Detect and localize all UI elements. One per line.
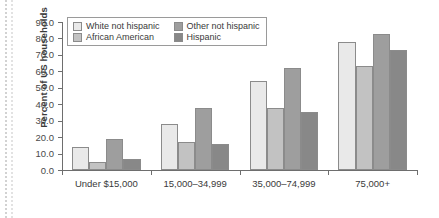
bar [390, 50, 407, 170]
legend-item-other-not-hispanic[interactable]: Other not hispanic [174, 21, 260, 31]
bar [123, 159, 140, 171]
y-tick: 90.0 [58, 22, 62, 23]
y-tick-label: 10.0 [36, 148, 55, 159]
y-tick: 70.0 [58, 55, 62, 56]
y-tick: 50.0 [58, 88, 62, 89]
y-tick: 60.0 [58, 71, 62, 72]
x-tick-label: 35,000–74,999 [252, 178, 315, 189]
bar [338, 42, 355, 170]
bar [161, 124, 178, 170]
x-tick [328, 170, 329, 175]
y-tick-label: 20.0 [36, 132, 55, 143]
bar [284, 68, 301, 170]
page-margin-rule [5, 0, 7, 218]
x-tick [62, 170, 63, 175]
legend-swatch-icon-white-not-hispanic [73, 22, 82, 31]
bar-chart-figure: Percent of US households 0.010.020.030.0… [0, 0, 439, 218]
chart-legend: White not hispanic Other not hispanic Af… [67, 17, 267, 46]
x-tick [240, 170, 241, 175]
x-tick-label: Under $15,000 [75, 178, 138, 189]
y-axis-line [62, 22, 63, 170]
y-tick-label: 60.0 [36, 66, 55, 77]
y-tick-label: 70.0 [36, 49, 55, 60]
bar [106, 139, 123, 170]
legend-swatch-icon-african-american [73, 33, 82, 42]
legend-label-other-not-hispanic: Other not hispanic [187, 21, 260, 31]
page-margin-rule-secondary [11, 0, 13, 218]
y-tick: 30.0 [58, 121, 62, 122]
bar [89, 162, 106, 170]
y-tick-label: 50.0 [36, 82, 55, 93]
legend-label-african-american: African American [86, 32, 154, 42]
bar [72, 147, 89, 170]
x-tick-label: 15,000–34,999 [163, 178, 226, 189]
legend-swatch-icon-hispanic [174, 33, 183, 42]
y-tick-label: 30.0 [36, 115, 55, 126]
y-tick-label: 80.0 [36, 33, 55, 44]
bar [178, 142, 195, 170]
bar [373, 34, 390, 170]
x-tick [151, 170, 152, 175]
y-tick: 80.0 [58, 38, 62, 39]
bar [267, 108, 284, 170]
y-tick: 20.0 [58, 137, 62, 138]
legend-item-african-american[interactable]: African American [73, 32, 160, 42]
bar [250, 81, 267, 170]
y-tick: 40.0 [58, 104, 62, 105]
y-tick-label: 0.0 [41, 165, 54, 176]
x-tick [417, 170, 418, 175]
legend-label-hispanic: Hispanic [187, 32, 222, 42]
bar [212, 144, 229, 170]
legend-item-white-not-hispanic[interactable]: White not hispanic [73, 21, 160, 31]
legend-label-white-not-hispanic: White not hispanic [86, 21, 160, 31]
legend-item-hispanic[interactable]: Hispanic [174, 32, 260, 42]
x-tick-label: 75,000+ [355, 178, 390, 189]
bar [195, 108, 212, 170]
y-tick-label: 40.0 [36, 99, 55, 110]
bar [356, 66, 373, 170]
y-tick-label: 90.0 [36, 17, 55, 28]
bar [301, 112, 318, 170]
legend-swatch-icon-other-not-hispanic [174, 22, 183, 31]
y-tick: 10.0 [58, 154, 62, 155]
